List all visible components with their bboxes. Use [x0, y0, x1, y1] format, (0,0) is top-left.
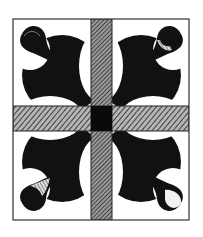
quilt-block-illustration: [0, 0, 203, 237]
center-square: [91, 106, 112, 131]
